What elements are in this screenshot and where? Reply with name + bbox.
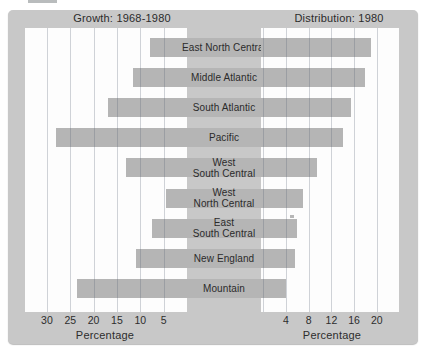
print-speck-artifact — [290, 215, 294, 218]
growth-bar — [166, 189, 187, 208]
distribution-axis-tick-12: 12 — [326, 314, 338, 326]
left-axis-label: Percentage — [76, 329, 134, 341]
left-panel-title: Growth: 1968-1980 — [73, 12, 171, 24]
page-crop-artifact — [28, 0, 57, 3]
distribution-axis-tick-20: 20 — [371, 314, 383, 326]
growth-axis-tick-25: 25 — [64, 314, 76, 326]
distribution-bar — [261, 279, 286, 298]
growth-axis-tick-15: 15 — [111, 314, 123, 326]
growth-bar — [152, 219, 187, 238]
distribution-axis-tick-16: 16 — [348, 314, 360, 326]
region-label: South Atlantic — [193, 102, 256, 113]
region-band: East North Central — [187, 38, 261, 57]
region-label: East South Central — [193, 217, 255, 239]
region-band: South Atlantic — [187, 98, 261, 117]
distribution-bar — [261, 189, 303, 208]
distribution-axis-tick-4: 4 — [283, 314, 289, 326]
right-panel-title: Distribution: 1980 — [294, 12, 383, 24]
region-band: Pacific — [187, 128, 261, 147]
paired-bar-chart-figure: Growth: 1968-1980 Distribution: 1980 Per… — [0, 0, 422, 357]
distribution-bar — [261, 219, 297, 238]
region-label: East North Central — [182, 42, 266, 53]
distribution-bar — [261, 68, 365, 87]
region-band: West North Central — [187, 189, 261, 208]
region-label: West South Central — [193, 157, 255, 179]
growth-gridline-20 — [94, 28, 95, 312]
growth-axis-tick-5: 5 — [161, 314, 167, 326]
growth-axis-tick-30: 30 — [41, 314, 53, 326]
region-label: Middle Atlantic — [191, 72, 257, 83]
region-label: Pacific — [209, 132, 239, 143]
growth-bar — [136, 249, 187, 268]
region-label: Mountain — [203, 283, 245, 294]
growth-gridline-25 — [70, 28, 71, 312]
region-band: Middle Atlantic — [187, 68, 261, 87]
distribution-axis-tick-8: 8 — [306, 314, 312, 326]
distribution-gridline-16 — [354, 28, 355, 312]
region-label: West North Central — [194, 187, 255, 209]
growth-bar — [56, 128, 187, 147]
region-label: New England — [194, 253, 255, 264]
distribution-bar — [261, 98, 351, 117]
growth-gridline-10 — [140, 28, 141, 312]
right-axis-label: Percentage — [303, 329, 361, 341]
region-band: New England — [187, 249, 261, 268]
region-band: East South Central — [187, 219, 261, 238]
distribution-gridline-20 — [377, 28, 378, 312]
distribution-bar — [261, 249, 295, 268]
region-band: West South Central — [187, 158, 261, 177]
distribution-gridline-0 — [263, 28, 264, 312]
distribution-gridline-12 — [331, 28, 332, 312]
growth-gridline-15 — [117, 28, 118, 312]
growth-gridline-5 — [164, 28, 165, 312]
growth-axis-tick-10: 10 — [134, 314, 146, 326]
distribution-gridline-4 — [286, 28, 287, 312]
growth-axis-tick-20: 20 — [88, 314, 100, 326]
growth-bar — [108, 98, 187, 117]
growth-bar — [133, 68, 187, 87]
distribution-gridline-8 — [309, 28, 310, 312]
growth-bar — [126, 158, 187, 177]
region-band: Mountain — [187, 279, 261, 298]
growth-gridline-30 — [47, 28, 48, 312]
